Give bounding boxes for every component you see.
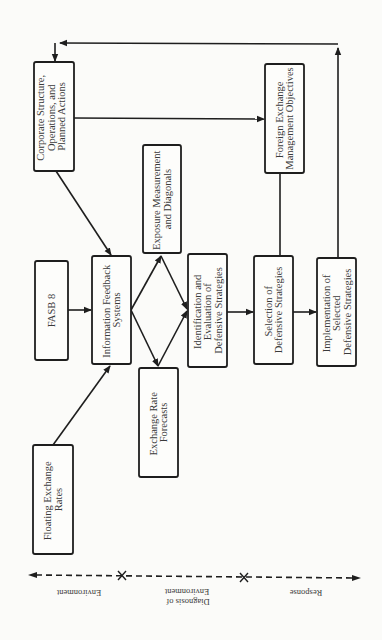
arrow-info-to-exposure <box>131 256 161 310</box>
axis-label-diagnosis: Diagnosis of Environment <box>164 587 209 607</box>
box-corporate-label: Corporate Structure, Operations, and Pla… <box>35 72 67 160</box>
process-diagram: Corporate Structure, Operations, and Pla… <box>0 0 382 640</box>
phase-axis: Environment Diagnosis of Environment Res… <box>28 571 361 607</box>
axis-label-environment: Environment <box>56 588 101 598</box>
axis-dashed-line <box>36 575 356 578</box>
box-fx-objectives-label: Foreign Exchange Management Objectives <box>274 67 296 169</box>
arrow-info-to-forecasts <box>131 310 158 366</box>
box-fasb-8: FASB 8 <box>35 261 68 360</box>
box-exchange-rate-forecasts: Exchange Rate Forecasts <box>139 368 178 477</box>
axis-arrow-left <box>28 572 37 578</box>
arrow-corporate-to-fx-objectives <box>74 118 264 119</box>
box-implementation: Implementation of Selected Defensive Str… <box>317 258 356 366</box>
axis-arrow-right <box>352 575 361 581</box>
box-fx-management-objectives: Foreign Exchange Management Objectives <box>265 64 304 173</box>
arrow-exposure-to-identification <box>161 256 187 309</box>
box-selection: Selection of Defensive Strategies <box>254 256 293 364</box>
arrow-floating-to-info-feedback <box>53 366 110 445</box>
box-exposure-measurement: Exposure Measurement and Diagonals <box>143 145 181 253</box>
box-fasb-label: FASB 8 <box>46 294 57 327</box>
box-identification-evaluation: Identification and Evaluation of Defensi… <box>188 254 227 367</box>
box-floating-exchange-rates: Floating Exchange Rates <box>33 445 73 554</box>
arrow-corporate-to-info-feedback <box>56 171 111 255</box>
arrow-forecasts-to-identification <box>158 311 187 366</box>
box-information-feedback: Information Feedback Systems <box>92 256 131 364</box>
box-corporate-structure: Corporate Structure, Operations, and Pla… <box>34 62 74 171</box>
axis-label-response: Response <box>289 588 322 598</box>
feedback-line-top <box>60 43 338 44</box>
